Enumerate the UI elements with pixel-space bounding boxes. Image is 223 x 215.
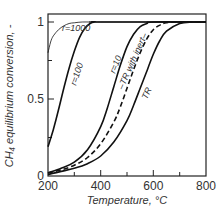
y-tick-0: 0 [37,169,44,183]
y-tick-0.5: 0.5 [27,92,44,106]
curve-tr-with-inert [48,22,206,173]
y-tick-1: 1 [37,15,44,29]
curve-r-10 [48,22,206,173]
x-axis-label: Temperature, °C [87,194,167,206]
y-axis-label: CH₄ equilibrium conversion, - [3,24,15,167]
x-tick-600: 600 [143,179,163,193]
chart: 200 400 600 800 0 0.5 1 Temperature, °C … [0,0,223,215]
plot-frame [48,14,206,176]
label-r1000: r=1000 [62,23,90,33]
y-axis-ticks [48,22,54,138]
label-tr: TR [140,85,154,100]
x-axis-ticks [74,170,179,176]
x-tick-800: 800 [196,179,216,193]
label-r100: r=100 [68,61,85,86]
x-tick-400: 400 [91,179,111,193]
curves [48,22,206,175]
